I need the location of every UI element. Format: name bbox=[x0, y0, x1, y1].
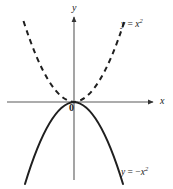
parabola-down-label-exponent: 2 bbox=[145, 165, 148, 172]
parabola-down-label: y = −x2 bbox=[121, 168, 148, 178]
parabola-down-label-equals: = − bbox=[125, 167, 140, 177]
x-axis-label: x bbox=[160, 96, 164, 106]
parabola-figure: y x 0 y = x2 y = −x2 bbox=[0, 0, 173, 189]
graph-canvas bbox=[0, 0, 173, 189]
parabola-up-label: y = x2 bbox=[121, 20, 143, 30]
y-axis-label: y bbox=[72, 3, 76, 13]
parabola-up-label-equals: = bbox=[125, 19, 135, 29]
parabola-up-label-exponent: 2 bbox=[140, 17, 143, 24]
origin-label: 0 bbox=[69, 103, 74, 113]
